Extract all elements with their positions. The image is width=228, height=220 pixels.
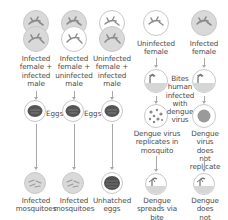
uninfected-female-icon [143, 10, 169, 36]
cross-2-outcome-label: Infected mosquitoes [54, 197, 95, 214]
dengue-spreads-label: Dengue spreads via bite [137, 197, 177, 220]
cross-3-male-icon [99, 26, 125, 52]
cross-1-male-icon [23, 26, 49, 52]
bites-human-label: Bites human infected with dengue virus [166, 75, 194, 125]
uninfected-female-arrow-1 [156, 58, 157, 66]
virus-blocked-label: Dengue virus does not replicate [190, 130, 220, 171]
cross-2-male-icon [61, 26, 87, 52]
dengue-no-spread-label: Dengue does not spread [191, 197, 218, 220]
cross-1-arrow-2 [36, 124, 37, 168]
cross-1-eggs-label: Eggs [46, 109, 63, 118]
cross-1-egg-icon [24, 100, 46, 122]
infected-female-arrow-3 [204, 156, 205, 170]
virus-replicates-icon [144, 104, 168, 128]
infected-female-arrow-2 [204, 96, 205, 102]
infected-female-icon [191, 10, 217, 36]
cross-3-egg-icon [101, 100, 123, 122]
cross-3-outcome-label: Unhatched eggs [93, 197, 131, 214]
uninfected-female-arrow-3 [156, 156, 157, 170]
infected-female-label: Infected female [190, 40, 219, 57]
cross-2-arrow-1 [74, 91, 75, 98]
uninfected-female-label: Uninfected female [137, 40, 175, 57]
cross-2-eggs-label: Eggs [84, 109, 101, 118]
cross-1-outcome-icon [24, 172, 46, 194]
cross-2-egg-icon [62, 100, 84, 122]
virus-blocked-icon [192, 104, 216, 128]
cross-1-arrow-1 [36, 91, 37, 98]
virus-replicates-label: Dengue virus replicates in mosquito [134, 130, 181, 155]
cross-2-outcome-icon [62, 172, 84, 194]
dengue-no-spread-icon [193, 173, 215, 195]
uninfected-female-bite-icon [144, 69, 168, 93]
uninfected-female-arrow-2 [156, 96, 157, 102]
infected-female-arrow-1 [204, 58, 205, 66]
cross-3-arrow-1 [112, 91, 113, 98]
cross-1-outcome-label: Infected mosquitoes [16, 197, 57, 214]
infected-female-bite-icon [192, 69, 216, 93]
dengue-spreads-icon [145, 173, 167, 195]
cross-3-arrow-2 [112, 124, 113, 168]
cross-3-label: Uninfected female + infected male [93, 55, 131, 88]
cross-3-outcome-icon [101, 172, 123, 194]
cross-2-arrow-2 [74, 124, 75, 168]
cross-1-label: Infected female + infected male [20, 55, 52, 88]
cross-2-label: Infected female + uninfected male [55, 55, 92, 88]
